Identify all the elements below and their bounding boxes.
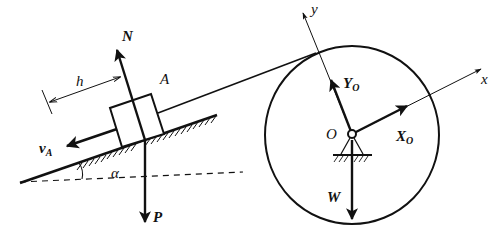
angle-arc: [79, 163, 83, 179]
pulley-incline-diagram: α A h N P vA y x YO XO: [0, 0, 499, 243]
reaction-x-label: XO: [395, 128, 413, 146]
velocity-arrow: [67, 129, 117, 146]
pivot-label: O: [326, 126, 337, 142]
x-axis-label: x: [480, 71, 488, 87]
normal-force-label: N: [121, 28, 134, 44]
distance-label: h: [76, 73, 84, 89]
angle-label: α: [111, 165, 120, 181]
velocity-label: vA: [39, 140, 53, 158]
block-a: [110, 94, 164, 147]
weight-p-label: P: [153, 209, 163, 225]
rope: [158, 53, 316, 113]
block-label: A: [159, 71, 170, 87]
weight-w-label: W: [327, 189, 342, 205]
y-axis-label: y: [309, 1, 318, 17]
pivot-o: [348, 130, 356, 138]
reaction-y-label: YO: [343, 75, 359, 93]
horizontal-reference-line: [20, 172, 243, 182]
